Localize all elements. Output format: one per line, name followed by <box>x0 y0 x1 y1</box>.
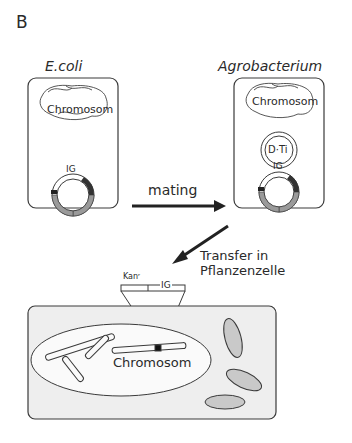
ecoli-chromosome-label: Chromosom <box>47 103 113 116</box>
plant-chromosome-label: Chromosom <box>113 355 191 370</box>
agro-plasmid-icon <box>258 172 299 212</box>
ecoli-plasmid-icon <box>51 174 94 216</box>
kan-label: Kanʳ <box>123 272 140 281</box>
mating-label: mating <box>148 182 197 198</box>
ecoli-plasmid-label: IG <box>66 164 76 174</box>
diagram-canvas <box>0 0 352 443</box>
transfer-label-line1: Transfer in <box>200 248 285 263</box>
ti-plasmid-label: D·Ti <box>268 144 287 155</box>
transfer-label: Transfer in Pflanzenzelle <box>200 248 285 278</box>
agro-plasmid-label: IG <box>273 161 283 171</box>
mating-arrow <box>132 200 226 212</box>
insert-ig-label: IG <box>160 280 172 290</box>
transfer-label-line2: Pflanzenzelle <box>200 263 285 278</box>
agro-chromosome-label: Chromosom <box>252 95 318 108</box>
